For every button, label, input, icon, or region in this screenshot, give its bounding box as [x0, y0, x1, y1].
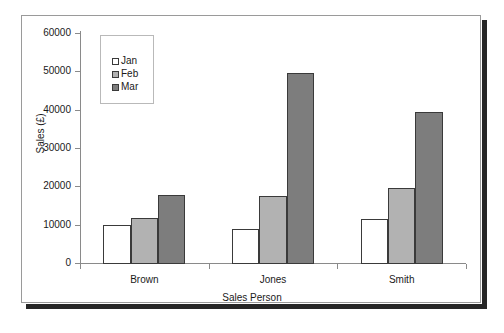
y-axis-tick — [75, 33, 80, 34]
y-axis-tick — [75, 225, 80, 226]
legend-swatch-jan-icon — [112, 58, 119, 65]
x-axis-tick — [337, 264, 338, 269]
bar-jones-feb — [259, 196, 286, 264]
legend-label: Mar — [121, 82, 138, 92]
y-axis-title: Sales (£) — [35, 94, 46, 174]
bar-brown-mar — [158, 195, 185, 264]
y-axis-tick — [75, 186, 80, 187]
legend-label: Feb — [121, 69, 138, 79]
bar-smith-feb — [388, 188, 415, 264]
bar-brown-jan — [103, 225, 130, 264]
bar-smith-jan — [361, 219, 388, 264]
bar-smith-mar — [415, 112, 442, 264]
y-axis-tick-label: 20000 — [25, 181, 71, 191]
y-axis-tick-label: 40000 — [25, 105, 71, 115]
x-axis-category-label: Brown — [84, 274, 204, 285]
bar-jones-jan — [232, 229, 259, 264]
legend-item-feb: Feb — [112, 69, 138, 79]
legend-item-jan: Jan — [112, 56, 137, 66]
x-axis-category-label: Jones — [213, 274, 333, 285]
x-axis-tick — [466, 264, 467, 269]
y-axis-tick — [75, 110, 80, 111]
y-axis-tick-label: 60000 — [25, 28, 71, 38]
y-axis-tick-label: 0 — [25, 258, 71, 268]
legend-item-mar: Mar — [112, 82, 138, 92]
y-axis-tick — [75, 71, 80, 72]
y-axis-tick-label: 30000 — [25, 143, 71, 153]
x-axis-category-label: Smith — [342, 274, 462, 285]
y-axis-tick-label: 10000 — [25, 220, 71, 230]
legend-swatch-feb-icon — [112, 71, 119, 78]
legend-swatch-mar-icon — [112, 84, 119, 91]
chart-frame: 0100002000030000400005000060000 BrownJon… — [21, 15, 481, 303]
x-axis-tick — [209, 264, 210, 269]
legend-label: Jan — [121, 56, 137, 66]
y-axis-tick-label: 50000 — [25, 66, 71, 76]
x-axis-title: Sales Person — [22, 292, 482, 303]
frame-drop-shadow-bottom — [26, 304, 487, 309]
bar-brown-feb — [131, 218, 158, 264]
y-axis-line — [80, 31, 81, 265]
x-axis-tick — [80, 264, 81, 269]
frame-drop-shadow-right — [482, 20, 487, 309]
y-axis-tick — [75, 148, 80, 149]
chart-legend: JanFebMar — [100, 35, 154, 104]
bar-jones-mar — [287, 73, 314, 264]
